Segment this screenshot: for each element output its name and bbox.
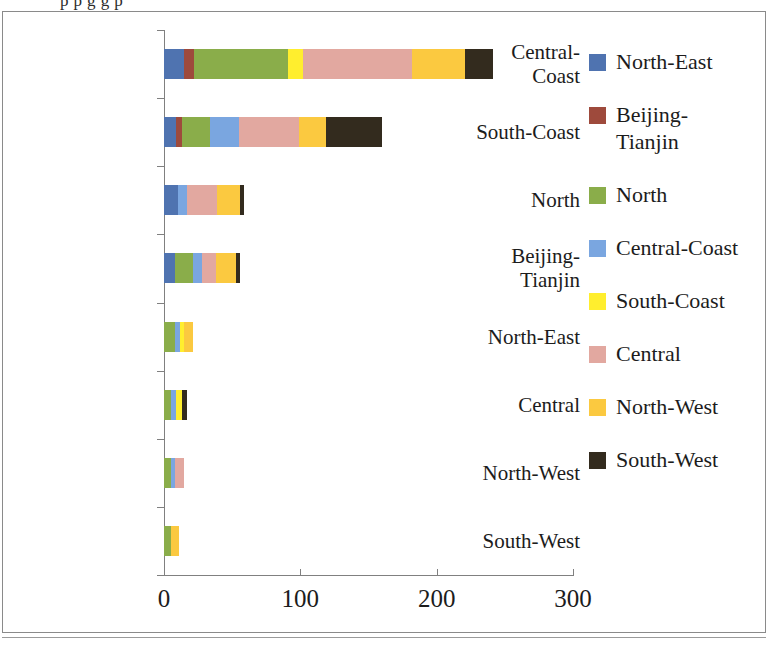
bar-segment <box>171 526 179 556</box>
bar-segment <box>240 185 244 215</box>
bar-segment <box>288 49 303 79</box>
legend-label: Central-Coast <box>616 234 738 261</box>
category-label: North-West <box>430 461 580 485</box>
legend-swatch <box>589 187 606 204</box>
y-tick <box>157 30 165 31</box>
y-tick <box>157 439 165 440</box>
category-label: South-West <box>430 529 580 553</box>
legend-label: North-East <box>616 48 713 75</box>
plot-area: 0100200300 Central- CoastSouth-CoastNort… <box>0 0 580 646</box>
chart-screenshot: p p g g p 0100200300 Central- CoastSouth… <box>0 0 769 646</box>
x-tick-label: 200 <box>418 585 456 613</box>
x-tick <box>437 569 438 576</box>
legend-label: Central <box>616 340 681 367</box>
legend-swatch <box>589 399 606 416</box>
bar-segment <box>175 458 185 488</box>
bar-segment <box>164 322 175 352</box>
bar-segment <box>184 49 194 79</box>
category-label: Central <box>430 393 580 417</box>
bar-segment <box>164 117 176 147</box>
legend-item[interactable]: Central <box>589 340 769 367</box>
legend-label: Beijing- Tianjin <box>616 101 688 155</box>
legend-label: North <box>616 181 667 208</box>
bar-segment <box>193 253 203 283</box>
legend-label: South-West <box>616 446 718 473</box>
category-label: North <box>430 188 580 212</box>
legend-swatch <box>589 107 606 124</box>
bar-segment <box>216 253 236 283</box>
stacked-bar <box>164 390 187 420</box>
bar-segment <box>236 253 240 283</box>
bar-segment <box>164 390 171 420</box>
bar-segment <box>210 117 239 147</box>
x-tick-label: 300 <box>554 585 592 613</box>
bar-segment <box>178 185 188 215</box>
legend-item[interactable]: South-West <box>589 446 769 473</box>
x-axis-line <box>164 575 573 576</box>
stacked-bar <box>164 322 193 352</box>
x-tick <box>300 569 301 576</box>
bar-segment <box>194 49 288 79</box>
stacked-bar <box>164 526 179 556</box>
bar-segment <box>164 49 184 79</box>
bar-segment <box>202 253 216 283</box>
legend-swatch <box>589 293 606 310</box>
legend-swatch <box>589 452 606 469</box>
y-tick <box>157 371 165 372</box>
bar-segment <box>164 185 178 215</box>
y-tick <box>157 234 165 235</box>
stacked-bar <box>164 185 244 215</box>
category-label: Beijing- Tianjin <box>430 244 580 292</box>
bar-segment <box>164 458 171 488</box>
chart-legend: North-EastBeijing- TianjinNorthCentral-C… <box>589 48 769 499</box>
legend-item[interactable]: North <box>589 181 769 208</box>
y-tick <box>157 98 165 99</box>
stacked-bar <box>164 253 240 283</box>
legend-swatch <box>589 54 606 71</box>
legend-swatch <box>589 240 606 257</box>
legend-item[interactable]: North-East <box>589 48 769 75</box>
legend-item[interactable]: Beijing- Tianjin <box>589 101 769 155</box>
bar-segment <box>299 117 326 147</box>
y-tick <box>157 507 165 508</box>
y-tick <box>157 166 165 167</box>
stacked-bar <box>164 49 493 79</box>
bar-segment <box>465 49 492 79</box>
bar-segment <box>164 253 175 283</box>
legend-label: North-West <box>616 393 718 420</box>
category-label: North-East <box>430 325 580 349</box>
legend-swatch <box>589 346 606 363</box>
bar-segment <box>187 185 217 215</box>
y-tick <box>157 575 165 576</box>
legend-item[interactable]: South-Coast <box>589 287 769 314</box>
legend-label: South-Coast <box>616 287 725 314</box>
bar-segment <box>175 253 193 283</box>
stacked-bar <box>164 117 382 147</box>
bar-segment <box>182 390 187 420</box>
bar-segment <box>326 117 382 147</box>
x-tick-label: 100 <box>282 585 320 613</box>
bar-segment <box>217 185 240 215</box>
bar-segment <box>182 117 211 147</box>
y-tick <box>157 303 165 304</box>
stacked-bar <box>164 458 184 488</box>
bar-segment <box>239 117 299 147</box>
bar-segment <box>184 322 192 352</box>
x-tick-label: 0 <box>158 585 171 613</box>
bar-segment <box>164 526 171 556</box>
category-label: South-Coast <box>430 120 580 144</box>
bar-segment <box>303 49 412 79</box>
legend-item[interactable]: Central-Coast <box>589 234 769 261</box>
bar-segment <box>412 49 465 79</box>
x-tick <box>573 569 574 576</box>
legend-item[interactable]: North-West <box>589 393 769 420</box>
